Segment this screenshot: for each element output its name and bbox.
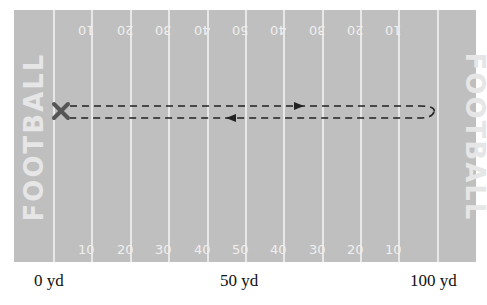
arrow-right-icon [294, 102, 304, 110]
axis-label-50: 50 yd [220, 271, 258, 291]
arrow-left-icon [226, 114, 236, 122]
start-x-marker-icon [54, 104, 68, 118]
axis-label-0: 0 yd [34, 271, 64, 291]
axis-label-100: 100 yd [410, 271, 457, 291]
route-path-back [70, 112, 434, 118]
route-path-out [70, 106, 434, 112]
play-diagram [0, 0, 487, 305]
